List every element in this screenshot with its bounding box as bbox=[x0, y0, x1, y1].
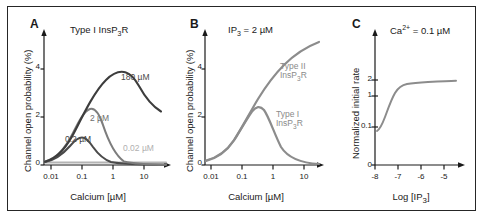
panel-c-x-axis-arrow bbox=[458, 162, 465, 167]
panel-a-y-axis-arrow bbox=[41, 29, 46, 36]
panel-c: C Ca2+ = 0.1 µM Normalized initial rate … bbox=[328, 7, 477, 212]
panel-c-plot bbox=[328, 7, 477, 212]
panel-b: B IP3 = 2 µM Channel open probability (%… bbox=[176, 7, 328, 212]
panel-c-curve-rate bbox=[377, 81, 456, 131]
panel-b-plot bbox=[176, 7, 328, 212]
panel-a: A Type I InsP3R Channel open probability… bbox=[8, 7, 176, 212]
figure-root: A Type I InsP3R Channel open probability… bbox=[0, 0, 483, 224]
panel-b-curve-type2 bbox=[206, 42, 319, 161]
panel-a-curve-0_2um bbox=[45, 138, 166, 165]
panel-c-y-axis-arrow bbox=[372, 29, 377, 36]
figure-border: A Type I InsP3R Channel open probability… bbox=[7, 6, 476, 211]
panel-a-curve-2um bbox=[45, 109, 166, 165]
panel-a-plot bbox=[8, 7, 176, 212]
panel-b-y-axis-arrow bbox=[202, 29, 207, 36]
panel-b-curve-type1 bbox=[206, 107, 319, 164]
